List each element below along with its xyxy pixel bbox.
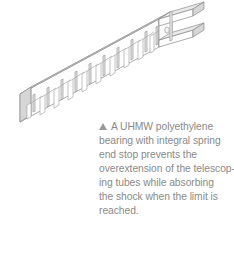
bearing-spring-finger bbox=[145, 31, 147, 52]
bearing-isometric-svg: .ln { stroke:#8b8b8b; stroke-width:0.7; … bbox=[0, 0, 234, 132]
caption-line-4: overextension of the telescop- bbox=[99, 162, 231, 176]
bearing-spring-finger bbox=[131, 39, 133, 60]
bearing-slot bbox=[68, 79, 73, 100]
caption-line-3: end stop prevents the bbox=[99, 148, 231, 162]
figure-root: .ln { stroke:#8b8b8b; stroke-width:0.7; … bbox=[0, 0, 234, 255]
bearing-slot bbox=[110, 55, 115, 76]
bearing-slot bbox=[124, 47, 129, 68]
end-block-inner-web bbox=[170, 11, 172, 41]
caption-line-1: A UHMW polyethylene bbox=[99, 120, 231, 134]
caption-line-5: ing tubes while absorbing bbox=[99, 176, 231, 190]
bearing-end-stop-block bbox=[159, 2, 204, 47]
bearing-illustration: .ln { stroke:#8b8b8b; stroke-width:0.7; … bbox=[0, 0, 234, 132]
bearing-spring-finger bbox=[33, 94, 35, 112]
bearing-spring-finger bbox=[47, 87, 49, 107]
bearing-spring-finger bbox=[75, 71, 77, 92]
bearing-slot bbox=[150, 34, 154, 53]
end-block-hole bbox=[165, 27, 170, 33]
bearing-spring-finger bbox=[89, 63, 91, 84]
bearing-body bbox=[20, 12, 170, 122]
bearing-slot bbox=[54, 87, 59, 108]
triangle-up-marker bbox=[99, 123, 107, 130]
bearing-slot bbox=[82, 71, 87, 92]
bearing-slot bbox=[96, 63, 101, 84]
bearing-slot bbox=[40, 95, 45, 115]
caption-line-7: reached. bbox=[99, 204, 231, 218]
bearing-slot bbox=[27, 103, 31, 119]
figure-caption: A UHMW polyethylene bearing with integra… bbox=[99, 120, 231, 218]
bearing-spring-finger bbox=[156, 26, 158, 45]
bearing-slot bbox=[138, 39, 143, 60]
caption-line-1-text: A UHMW polyethylene bbox=[111, 121, 213, 132]
caption-line-2: bearing with integral spring bbox=[99, 134, 231, 148]
bearing-spring-finger bbox=[117, 47, 119, 68]
caption-line-6: the shock when the limit is bbox=[99, 190, 231, 204]
bearing-spring-finger bbox=[61, 79, 63, 100]
bearing-spring-finger bbox=[103, 55, 105, 76]
